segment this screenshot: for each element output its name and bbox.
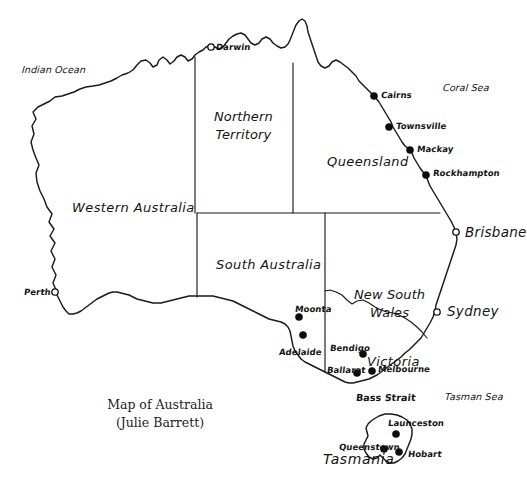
city-marker-sydney[interactable] [434, 309, 440, 315]
city-marker-perth[interactable] [52, 289, 58, 295]
sea-label-bass-strait: Bass Strait [356, 393, 417, 403]
map-title-line1: Map of Australia [60, 396, 260, 414]
map-title: Map of Australia (Julie Barrett) [60, 396, 260, 432]
state-label-new-south-wales: New SouthWales [354, 286, 425, 321]
sea-label-tasman-sea: Tasman Sea [445, 392, 504, 402]
city-label-townsville: Townsville [395, 122, 447, 131]
state-label-line1: New South [354, 286, 425, 304]
city-label-adelaide: Adelaide [278, 348, 322, 357]
city-marker-townsville[interactable] [385, 123, 392, 130]
city-marker-moonta[interactable] [295, 313, 302, 320]
city-label-bendigo: Bendigo [329, 344, 370, 353]
state-label-line2: Territory [214, 126, 273, 144]
state-label-line2: Wales [354, 304, 425, 322]
state-label-victoria: Victoria [367, 355, 420, 368]
city-label-launceston: Launceston [387, 419, 444, 428]
city-marker-darwin[interactable] [208, 44, 214, 50]
city-marker-cairns[interactable] [370, 92, 377, 99]
city-label-sydney: Sydney [447, 305, 499, 319]
city-marker-brisbane[interactable] [453, 229, 459, 235]
state-label-south-australia: South Australia [216, 258, 321, 271]
state-label-western-australia: Western Australia [72, 201, 195, 214]
city-marker-rockhampton[interactable] [422, 171, 429, 178]
sea-label-coral-sea: Coral Sea [443, 83, 490, 93]
state-border-lines [195, 57, 440, 372]
map-title-line2: (Julie Barrett) [60, 414, 260, 432]
city-marker-mackay[interactable] [406, 146, 413, 153]
state-label-tasmania: Tasmania [323, 452, 394, 466]
australia-map: DarwinCairnsTownsvilleMackayRockhamptonB… [0, 0, 527, 485]
city-label-brisbane: Brisbane [465, 226, 527, 240]
state-label-queensland: Queensland [327, 155, 409, 168]
city-label-mackay: Mackay [416, 145, 454, 154]
sea-label-indian-ocean: Indian Ocean [22, 65, 87, 75]
city-marker-adelaide[interactable] [299, 331, 306, 338]
city-label-cairns: Cairns [380, 91, 412, 100]
city-label-perth: Perth [23, 288, 51, 297]
city-label-rockhampton: Rockhampton [432, 169, 500, 178]
city-label-moonta: Moonta [294, 305, 332, 314]
city-label-hobart: Hobart [407, 450, 442, 459]
city-label-darwin: Darwin [215, 43, 250, 52]
state-label-northern-territory: NorthernTerritory [214, 108, 273, 143]
state-label-line1: Northern [214, 108, 273, 126]
city-marker-launceston[interactable] [392, 430, 399, 437]
city-label-ballarat: Ballarat [326, 366, 366, 375]
